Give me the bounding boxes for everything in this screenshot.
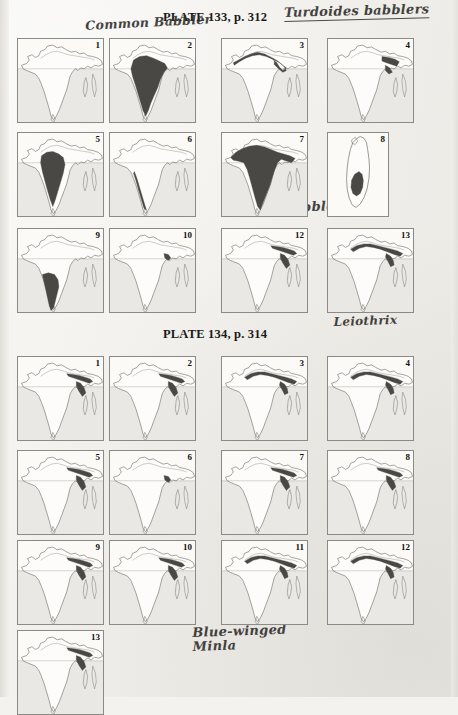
map-panel-plate-134-3[interactable]: 3	[221, 356, 308, 441]
map-panel-plate-134-9[interactable]: 9	[17, 540, 104, 625]
page-edge-left	[0, 0, 9, 697]
map-panel-plate-134-5[interactable]: 5	[17, 450, 104, 535]
map-panel-number: 11	[295, 542, 304, 552]
map-panel-plate-133-5[interactable]: 5	[17, 132, 104, 217]
map-panel-plate-134-4[interactable]: 4	[327, 356, 414, 441]
map-panel-number: 9	[96, 230, 101, 240]
map-panel-number: 9	[96, 542, 101, 552]
map-panel-number: 6	[188, 452, 193, 462]
map-panel-number: 12	[295, 230, 304, 240]
map-panel-number: 12	[401, 542, 410, 552]
map-panel-plate-133-12[interactable]: 12	[221, 228, 308, 313]
map-panel-plate-133-8[interactable]: 8	[327, 132, 389, 217]
map-panel-plate-134-1[interactable]: 1	[17, 356, 104, 441]
map-panel-plate-133-2[interactable]: 2	[109, 38, 196, 123]
map-panel-number: 5	[96, 452, 101, 462]
map-panel-number: 4	[406, 358, 411, 368]
map-panel-number: 5	[96, 134, 101, 144]
map-panel-number: 3	[300, 40, 305, 50]
map-panel-number: 10	[183, 542, 192, 552]
map-panel-number: 3	[300, 358, 305, 368]
map-panel-number: 7	[300, 452, 305, 462]
map-panel-plate-134-8[interactable]: 8	[327, 450, 414, 535]
map-panel-plate-133-6[interactable]: 6	[109, 132, 196, 217]
map-panel-number: 7	[300, 134, 305, 144]
map-panel-plate-133-4[interactable]: 4	[327, 38, 414, 123]
map-panel-number: 6	[188, 134, 193, 144]
map-panel-plate-134-7[interactable]: 7	[221, 450, 308, 535]
map-panel-plate-134-6[interactable]: 6	[109, 450, 196, 535]
map-panel-plate-133-10[interactable]: 10	[109, 228, 196, 313]
map-panel-number: 1	[96, 358, 101, 368]
map-panel-plate-133-3[interactable]: 3	[221, 38, 308, 123]
map-panel-number: 13	[91, 632, 100, 642]
map-panel-plate-133-13[interactable]: 13	[327, 228, 414, 313]
map-panel-plate-134-12[interactable]: 12	[327, 540, 414, 625]
map-panel-number: 8	[406, 452, 411, 462]
map-panel-number: 8	[381, 134, 386, 144]
map-panel-number: 2	[188, 358, 193, 368]
map-panel-plate-133-1[interactable]: 1	[17, 38, 104, 123]
map-panel-plate-133-7[interactable]: 7	[221, 132, 308, 217]
map-panel-number: 1	[96, 40, 101, 50]
map-panel-plate-134-10[interactable]: 10	[109, 540, 196, 625]
map-panel-number: 13	[401, 230, 410, 240]
page-edge-right	[451, 0, 458, 697]
map-panel-number: 4	[406, 40, 411, 50]
map-panel-number: 2	[188, 40, 193, 50]
map-panel-plate-134-13[interactable]: 13	[17, 630, 104, 715]
plate-134-title: PLATE 134, p. 314	[163, 327, 267, 342]
map-panel-number: 10	[183, 230, 192, 240]
map-panel-plate-133-9[interactable]: 9	[17, 228, 104, 313]
map-panel-plate-134-11[interactable]: 11	[221, 540, 308, 625]
annotation-blue-winged-minla: Blue-winged Minla	[192, 623, 287, 654]
map-panel-plate-134-2[interactable]: 2	[109, 356, 196, 441]
